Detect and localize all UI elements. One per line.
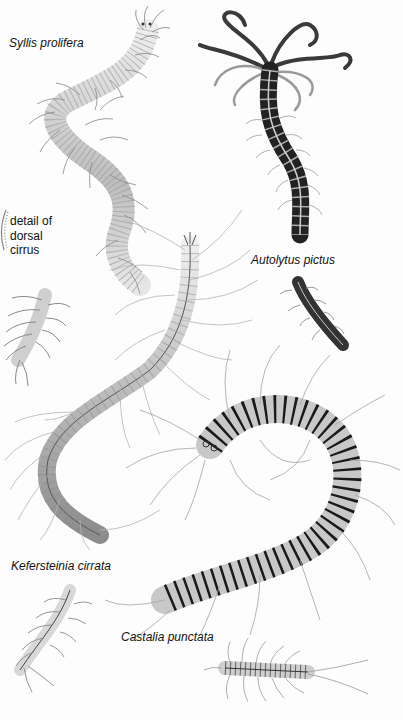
label-syllis-prolifera: Syllis prolifera [9, 36, 84, 50]
autolytus-pictus-drawing [200, 12, 350, 345]
label-detail-line-3: cirrus [10, 243, 70, 258]
label-detail-line-1: detail of [10, 214, 70, 229]
small-worm-bottom-left-drawing [16, 590, 92, 692]
label-detail-line-2: dorsal [10, 229, 70, 244]
illustration-plate: Syllis prolifera detail of dorsal cirrus… [0, 0, 403, 720]
label-autolytus-pictus: Autolytus pictus [251, 253, 335, 267]
castalia-punctata-drawing [204, 638, 368, 702]
worm-illustrations [0, 0, 403, 720]
dorsal-cirrus-detail-drawing [1, 210, 8, 250]
syllis-fragment-drawing [4, 295, 70, 386]
label-dorsal-cirrus-detail: detail of dorsal cirrus [10, 214, 70, 258]
banded-worm-drawing [105, 345, 400, 640]
label-kefersteinia-cirrata: Kefersteinia cirrata [11, 559, 111, 573]
label-castalia-punctata: Castalia punctata [121, 630, 214, 644]
